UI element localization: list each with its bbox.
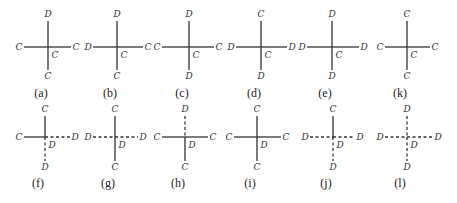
- node-bottom-label: C: [45, 71, 52, 81]
- subfigure-caption: (a): [34, 86, 47, 100]
- node-bottom-label: D: [327, 71, 335, 81]
- node-top-label: C: [42, 104, 49, 114]
- node-left-label: D: [226, 42, 234, 52]
- node-right-label: C: [283, 132, 290, 142]
- node-center-label: D: [335, 140, 343, 150]
- node-right-label: D: [355, 132, 363, 142]
- node-center-label: C: [411, 50, 418, 60]
- node-bottom-label: C: [254, 162, 261, 172]
- node-right-label: D: [433, 132, 441, 142]
- node-bottom-label: D: [402, 162, 410, 172]
- subfigure-caption: (e): [318, 86, 331, 100]
- subfigure-caption: (c): [175, 86, 188, 100]
- node-left-label: C: [16, 132, 23, 142]
- cross-diagram-k: CCCCC(k): [377, 9, 439, 100]
- node-right-label: C: [73, 42, 80, 52]
- node-top-label: D: [402, 104, 410, 114]
- node-left-label: D: [83, 132, 91, 142]
- subfigure-caption: (i): [244, 176, 255, 190]
- node-bottom-label: D: [328, 162, 336, 172]
- node-bottom-label: D: [184, 71, 192, 81]
- node-right-label: C: [145, 42, 152, 52]
- node-top-label: D: [43, 9, 51, 19]
- cross-diagram-c: DDCCC(c): [154, 9, 223, 100]
- cross-diagram-g: CCDDD(g): [83, 104, 146, 190]
- node-center-label: C: [336, 50, 343, 60]
- subfigure-caption: (d): [247, 86, 261, 100]
- node-left-label: C: [16, 42, 23, 52]
- node-center-label: D: [117, 140, 125, 150]
- cross-diagram-b: DCDCC(b): [83, 9, 151, 100]
- node-bottom-label: C: [114, 71, 121, 81]
- node-center-label: C: [265, 50, 272, 60]
- node-top-label: C: [258, 9, 265, 19]
- node-center-label: D: [409, 140, 417, 150]
- node-top-label: C: [112, 104, 119, 114]
- cross-diagram-j: CDDDD(j): [300, 104, 363, 190]
- node-top-label: D: [112, 9, 120, 19]
- node-right-label: C: [210, 132, 217, 142]
- node-center-label: D: [47, 140, 55, 150]
- cross-diagram-i: CCCCD(i): [226, 104, 290, 190]
- cross-diagram-l: DDDDD(l): [375, 104, 441, 190]
- node-top-label: D: [327, 9, 335, 19]
- node-right-label: D: [287, 42, 295, 52]
- subfigure-caption: (j): [320, 176, 331, 190]
- cross-diagram-e: DDDDC(e): [297, 9, 367, 100]
- node-bottom-label: D: [40, 162, 48, 172]
- cross-diagram-h: DCCCD(h): [154, 104, 217, 190]
- node-top-label: C: [254, 104, 261, 114]
- node-bottom-label: C: [182, 162, 189, 172]
- subfigure-caption: (k): [393, 86, 407, 100]
- subfigure-caption: (l): [394, 176, 405, 190]
- subfigure-caption: (b): [103, 86, 117, 100]
- node-left-label: D: [300, 132, 308, 142]
- cross-diagram-a: DCCCC(a): [16, 9, 80, 100]
- subfigure-caption: (f): [32, 176, 44, 190]
- node-left-label: D: [297, 42, 305, 52]
- node-right-label: D: [359, 42, 367, 52]
- node-left-label: D: [83, 42, 91, 52]
- cross-diagram-f: CDCDD(f): [16, 104, 79, 190]
- node-left-label: D: [375, 132, 383, 142]
- subfigure-caption: (h): [171, 176, 185, 190]
- cross-diagram-figure: DCCCC(a)DCDCC(b)DDCCC(c)CDDDC(d)DDDDC(e)…: [0, 0, 457, 203]
- node-right-label: D: [138, 132, 146, 142]
- node-right-label: C: [216, 42, 223, 52]
- node-right-label: D: [70, 132, 78, 142]
- node-left-label: C: [226, 132, 233, 142]
- node-bottom-label: C: [112, 162, 119, 172]
- node-left-label: C: [154, 42, 161, 52]
- node-right-label: C: [432, 42, 439, 52]
- node-bottom-label: D: [256, 71, 264, 81]
- node-center-label: D: [259, 140, 267, 150]
- subfigure-caption: (g): [101, 176, 115, 190]
- node-top-label: C: [404, 9, 411, 19]
- node-top-label: D: [184, 9, 192, 19]
- cross-diagram-d: CDDDC(d): [226, 9, 295, 100]
- node-top-label: C: [330, 104, 337, 114]
- node-bottom-label: C: [404, 71, 411, 81]
- node-left-label: C: [377, 42, 384, 52]
- node-center-label: C: [52, 50, 59, 60]
- node-center-label: D: [187, 140, 195, 150]
- node-left-label: C: [154, 132, 161, 142]
- node-center-label: C: [193, 50, 200, 60]
- node-center-label: C: [121, 50, 128, 60]
- node-top-label: D: [180, 104, 188, 114]
